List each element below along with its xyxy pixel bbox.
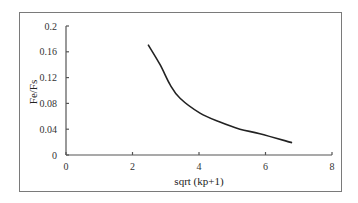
y-tick-label: 0.04 xyxy=(40,124,58,135)
y-tick-label: 0.16 xyxy=(40,46,58,57)
ticks: 0246800.040.080.120.160.2 xyxy=(40,21,335,173)
x-tick-label: 6 xyxy=(263,161,268,172)
data-line xyxy=(148,45,292,143)
y-axis-title: Fe/Fs xyxy=(27,80,39,104)
x-tick-label: 8 xyxy=(330,161,335,172)
x-tick-label: 4 xyxy=(197,161,202,172)
y-tick-label: 0.2 xyxy=(45,21,58,32)
axes xyxy=(66,26,332,155)
line-chart: 0246800.040.080.120.160.2 sqrt (kp+1) Fe… xyxy=(0,0,358,203)
x-tick-label: 2 xyxy=(130,161,135,172)
y-tick-label: 0 xyxy=(52,150,57,161)
x-tick-label: 0 xyxy=(64,161,69,172)
x-axis-title: sqrt (kp+1) xyxy=(174,175,224,188)
y-tick-label: 0.08 xyxy=(40,98,58,109)
y-tick-label: 0.12 xyxy=(40,72,58,83)
